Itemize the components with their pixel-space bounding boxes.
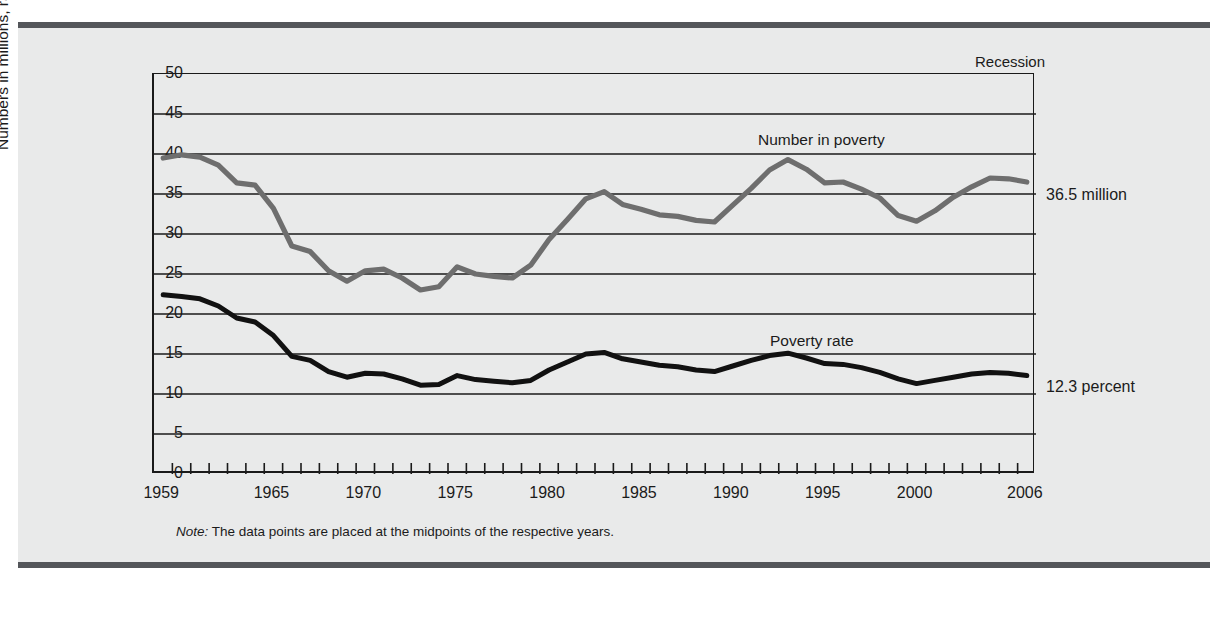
series-label-poverty-rate: Poverty rate — [770, 332, 854, 350]
series-line-number-in-poverty — [163, 155, 1027, 290]
x-tick-label: 2000 — [897, 484, 933, 502]
series-line-poverty-rate — [163, 295, 1027, 385]
x-tick-label: 1990 — [713, 484, 749, 502]
x-tick-label: 1975 — [437, 484, 473, 502]
x-tick-marks — [172, 463, 1017, 474]
x-tick-label: 1980 — [529, 484, 565, 502]
chart-canvas — [154, 74, 1036, 474]
note-prefix: Note: — [176, 524, 208, 539]
series-label-number-in-poverty: Number in poverty — [758, 131, 885, 149]
x-tick-label: 1965 — [254, 484, 290, 502]
x-tick-label: 1985 — [621, 484, 657, 502]
recession-label: Recession — [975, 53, 1045, 70]
end-value-label-rate: 12.3 percent — [1046, 378, 1135, 396]
end-value-label-number: 36.5 million — [1046, 186, 1127, 204]
x-tick-label: 2006 — [1007, 484, 1043, 502]
poverty-chart-figure: Recession Numbers in millions, rates in … — [0, 0, 1225, 621]
bottom-rule — [18, 562, 1210, 568]
plot-area — [152, 73, 1034, 473]
y-axis-title: Numbers in millions, rates in percent — [0, 0, 12, 150]
x-tick-label: 1995 — [805, 484, 841, 502]
note-text: The data points are placed at the midpoi… — [208, 524, 614, 539]
series-lines — [163, 155, 1027, 385]
x-tick-label: 1970 — [346, 484, 382, 502]
x-tick-label: 1959 — [143, 484, 179, 502]
gridlines — [154, 114, 1036, 434]
figure-note: Note: The data points are placed at the … — [176, 524, 614, 539]
top-rule — [18, 22, 1210, 28]
